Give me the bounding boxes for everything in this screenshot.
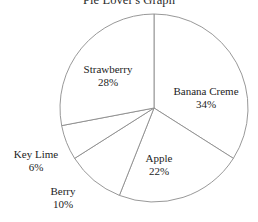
pie-label-strawberry-value: 28% (66, 76, 150, 89)
pie-label-key-lime: Key Lime 6% (0, 148, 73, 173)
pie-label-banana-creme: Banana Creme 34% (160, 85, 252, 110)
pie-chart: Pie Lover's Graph Banana Creme 34% Straw… (0, 0, 258, 222)
pie-label-apple: Apple 22% (128, 152, 190, 177)
pie-label-key-lime-value: 6% (0, 161, 73, 174)
pie-label-banana-creme-value: 34% (160, 98, 252, 111)
pie-label-berry-name: Berry (30, 185, 96, 198)
pie-label-strawberry: Strawberry 28% (66, 63, 150, 88)
pie-label-berry-value: 10% (30, 198, 96, 211)
pie-label-apple-value: 22% (128, 165, 190, 178)
pie-label-key-lime-name: Key Lime (0, 148, 73, 161)
pie-label-strawberry-name: Strawberry (66, 63, 150, 76)
pie-label-banana-creme-name: Banana Creme (160, 85, 252, 98)
pie-label-berry: Berry 10% (30, 185, 96, 210)
pie-label-apple-name: Apple (128, 152, 190, 165)
